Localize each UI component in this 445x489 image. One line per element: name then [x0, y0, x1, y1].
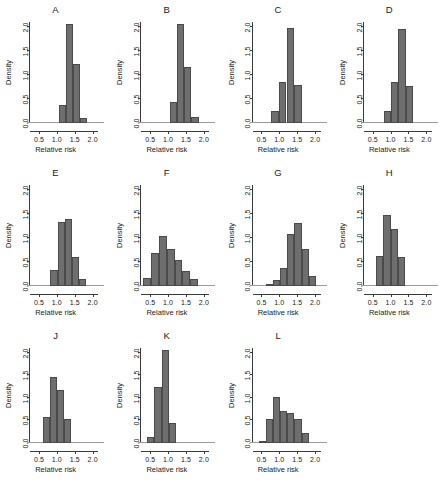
bar-group: [253, 22, 321, 123]
histogram-bar: [398, 29, 405, 123]
x-axis: 0.51.01.52.0: [253, 131, 321, 132]
panel-d: DDensity0.00.51.01.52.00.51.01.52.0Relat…: [334, 0, 445, 163]
plot-area: [141, 185, 209, 286]
x-tick-label: 0.5: [256, 136, 266, 144]
x-tick: [261, 451, 262, 454]
x-tick-label: 2.0: [88, 299, 98, 307]
plot-area: [30, 348, 98, 443]
histogram-bar: [184, 67, 191, 123]
panel-f: FDensity0.00.51.01.52.00.51.01.52.0Relat…: [111, 163, 222, 326]
y-tick-label: 0.0: [244, 118, 251, 128]
y-tick-label: 2.0: [22, 185, 29, 195]
x-tick-label: 2.0: [199, 456, 209, 464]
bar-group: [141, 185, 209, 286]
x-tick: [186, 451, 187, 454]
x-tick-label: 2.0: [421, 299, 431, 307]
histogram-bar: [154, 387, 161, 443]
y-axis-title-text: Density: [338, 223, 347, 248]
panel-a: ADensity0.00.51.01.52.00.51.01.52.0Relat…: [0, 0, 111, 163]
panel-letter: J: [0, 330, 111, 341]
y-tick-label: 1.0: [355, 70, 362, 80]
x-tick: [261, 294, 262, 297]
y-tick-label: 1.5: [244, 371, 251, 381]
x-tick: [150, 451, 151, 454]
histogram-bar: [170, 102, 177, 123]
y-tick-label: 0.5: [133, 94, 140, 104]
x-tick-label: 1.0: [52, 136, 62, 144]
y-tick-label: 1.0: [22, 70, 29, 80]
x-tick-label: 0.5: [256, 456, 266, 464]
y-axis-title-text: Density: [4, 223, 13, 248]
y-tick-label: 0.0: [22, 281, 29, 291]
x-tick-label: 0.5: [145, 299, 155, 307]
plot-area: [30, 185, 98, 286]
x-tick-label: 1.5: [181, 136, 191, 144]
x-tick: [75, 451, 76, 454]
y-tick-label: 0.0: [133, 438, 140, 448]
x-tick: [150, 131, 151, 134]
y-tick-label: 2.0: [133, 348, 140, 358]
histogram-bar: [79, 279, 86, 286]
panel-row-2: EDensity0.00.51.01.52.00.51.01.52.0Relat…: [0, 163, 445, 326]
x-axis-title: Relative risk: [223, 145, 334, 154]
y-tick-label: 2.0: [244, 348, 251, 358]
y-axis-title: Density: [115, 348, 124, 443]
x-tick-label: 2.0: [199, 136, 209, 144]
x-tick-label: 2.0: [88, 456, 98, 464]
x-tick: [39, 131, 40, 134]
x-axis-title: Relative risk: [334, 308, 445, 317]
histogram-bar: [302, 433, 309, 443]
bar-group: [364, 22, 432, 123]
bar-group: [141, 348, 209, 443]
x-tick: [57, 294, 58, 297]
x-tick-label: 1.5: [292, 136, 302, 144]
panel-c: CDensity0.00.51.01.52.00.51.01.52.0Relat…: [223, 0, 334, 163]
x-tick-label: 1.0: [386, 136, 396, 144]
y-tick-label: 1.0: [133, 393, 140, 403]
x-tick: [150, 294, 151, 297]
y-axis-title-text: Density: [338, 60, 347, 85]
panel-e: EDensity0.00.51.01.52.00.51.01.52.0Relat…: [0, 163, 111, 326]
histogram-bar: [259, 441, 266, 443]
y-axis-title-text: Density: [227, 223, 236, 248]
histogram-bar: [391, 229, 398, 286]
x-tick: [93, 294, 94, 297]
histogram-bar: [309, 276, 316, 286]
histogram-bar: [376, 256, 383, 286]
y-tick-label: 2.0: [355, 185, 362, 195]
y-tick-label: 0.5: [22, 416, 29, 426]
y-tick-label: 1.0: [355, 233, 362, 243]
x-tick-label: 0.5: [368, 136, 378, 144]
bar-group: [141, 22, 209, 123]
x-axis-title: Relative risk: [0, 465, 111, 474]
histogram-bar: [294, 85, 302, 123]
y-axis-title: Density: [115, 185, 124, 286]
histogram-bar: [64, 419, 71, 443]
y-axis-title: Density: [338, 22, 347, 123]
x-tick: [75, 294, 76, 297]
x-tick-label: 1.0: [163, 299, 173, 307]
plot-area: [253, 348, 321, 443]
x-tick: [204, 451, 205, 454]
y-axis-title: Density: [4, 348, 13, 443]
y-tick-label: 0.0: [22, 438, 29, 448]
histogram-bar: [43, 417, 50, 443]
panel-l: LDensity0.00.51.01.52.00.51.01.52.0Relat…: [223, 326, 334, 481]
panel-letter: G: [223, 167, 334, 178]
x-tick-label: 1.5: [292, 299, 302, 307]
x-axis-title: Relative risk: [223, 308, 334, 317]
x-tick: [75, 131, 76, 134]
y-axis-title-text: Density: [115, 383, 124, 408]
x-tick: [408, 294, 409, 297]
histogram-bar: [73, 64, 80, 123]
histogram-bar: [287, 413, 294, 443]
plot-area: [30, 22, 98, 123]
x-tick-label: 1.0: [52, 456, 62, 464]
plot-area: [141, 22, 209, 123]
x-tick-label: 1.0: [163, 456, 173, 464]
panel-k: KDensity0.00.51.01.52.00.51.01.52.0Relat…: [111, 326, 222, 481]
y-axis-title-text: Density: [4, 383, 13, 408]
histogram-panel-figure: ADensity0.00.51.01.52.00.51.01.52.0Relat…: [0, 0, 445, 489]
y-tick-label: 2.0: [22, 348, 29, 358]
x-tick: [261, 131, 262, 134]
